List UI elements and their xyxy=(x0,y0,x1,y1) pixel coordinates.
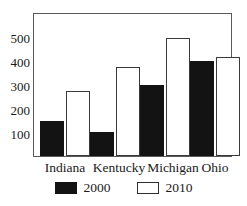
y-tick-label-200: 200 xyxy=(0,104,30,117)
x-tick-label-ohio: Ohio xyxy=(191,160,239,175)
bars-layer xyxy=(34,14,231,156)
y-tick-label-400: 400 xyxy=(0,56,30,69)
legend-swatch-2000-icon xyxy=(55,182,77,194)
chart-legend: 2000 2010 xyxy=(0,181,247,195)
legend-label-2000: 2000 xyxy=(84,181,111,195)
bar-kentucky-2010 xyxy=(116,67,140,156)
legend-item-2010: 2010 xyxy=(137,181,193,195)
bar-ohio-2010 xyxy=(216,57,240,156)
legend-item-2000: 2000 xyxy=(55,181,111,195)
y-tick-label-300: 300 xyxy=(0,80,30,93)
bar-kentucky-2000 xyxy=(90,132,114,156)
y-tick-label-500: 500 xyxy=(0,32,30,45)
bar-michigan-2000 xyxy=(140,85,164,156)
bar-chart: 500 400 300 200 100 Indiana Kentucky Mic… xyxy=(0,0,247,206)
bar-michigan-2010 xyxy=(166,38,190,156)
bar-indiana-2000 xyxy=(40,121,64,157)
legend-swatch-2010-icon xyxy=(137,182,159,194)
legend-label-2010: 2010 xyxy=(166,181,193,195)
y-tick-label-100: 100 xyxy=(0,128,30,141)
bar-indiana-2010 xyxy=(66,91,90,156)
bar-ohio-2000 xyxy=(190,61,214,156)
